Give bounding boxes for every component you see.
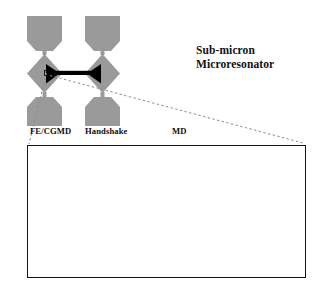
figure-root: FE/CGMD Handshake MD Sub-micron Microres… bbox=[0, 0, 322, 289]
panel-border bbox=[27, 145, 306, 278]
region-label-fe-cgmd: FE/CGMD bbox=[30, 126, 71, 136]
anchor-pad-bottom-right bbox=[85, 97, 120, 126]
region-label-md: MD bbox=[172, 126, 187, 136]
figure-title: Sub-micron Microresonator bbox=[196, 44, 274, 71]
figure-title-line-1: Sub-micron bbox=[196, 44, 255, 56]
anchor-pad-top-left bbox=[27, 16, 62, 51]
resonator-beam bbox=[56, 71, 91, 75]
microresonator-schematic bbox=[0, 0, 322, 145]
anchor-pad-bottom-left bbox=[27, 97, 62, 126]
multiscale-simulation-panel bbox=[27, 145, 306, 278]
region-label-handshake: Handshake bbox=[85, 126, 127, 136]
figure-title-line-2: Microresonator bbox=[196, 58, 274, 72]
anchor-pad-top-right bbox=[85, 16, 120, 51]
